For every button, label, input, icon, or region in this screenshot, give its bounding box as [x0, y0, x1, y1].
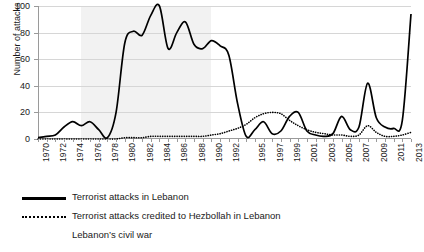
x-axis-tick-labels: 1970197219741976197819801982198419861988… — [38, 143, 411, 179]
legend-item-attacks: Terrorist attacks in Lebanon — [0, 188, 418, 207]
x-tick-mark — [246, 139, 247, 142]
legend-item-hezbollah: Terrorist attacks credited to Hezbollah … — [0, 207, 418, 226]
x-tick-label: 1970 — [42, 143, 51, 162]
x-tick-label: 1984 — [163, 143, 172, 162]
plot-area — [38, 6, 411, 139]
x-tick-label: 2003 — [328, 143, 337, 162]
x-tick-mark — [359, 139, 360, 142]
x-tick-mark — [185, 139, 186, 142]
x-tick-mark — [116, 139, 117, 142]
x-tick-mark — [47, 139, 48, 142]
x-tick-mark — [290, 139, 291, 142]
x-tick-mark — [342, 139, 343, 142]
x-tick-label: 1982 — [146, 143, 155, 162]
x-tick-mark — [368, 139, 369, 142]
x-tick-mark — [55, 139, 56, 142]
x-tick-mark — [133, 139, 134, 142]
chart-legend: Terrorist attacks in Lebanon Terrorist a… — [0, 188, 418, 245]
x-tick-label: 1999 — [293, 143, 302, 162]
x-tick-mark — [411, 139, 412, 142]
x-tick-mark — [151, 139, 152, 142]
x-tick-label: 1992 — [232, 143, 241, 162]
x-tick-mark — [402, 139, 403, 142]
x-tick-mark — [350, 139, 351, 142]
x-tick-mark — [385, 139, 386, 142]
x-tick-mark — [125, 139, 126, 142]
x-tick-mark — [298, 139, 299, 142]
x-tick-label: 2013 — [415, 143, 424, 162]
legend-label-hezbollah: Terrorist attacks credited to Hezbollah … — [72, 210, 281, 221]
y-axis-ticks: 020406080100 — [0, 0, 34, 139]
x-tick-label: 1974 — [76, 143, 85, 162]
y-tick-label: 40 — [20, 81, 30, 90]
legend-swatch-dotted-line — [22, 216, 66, 218]
x-tick-mark — [220, 139, 221, 142]
x-tick-mark — [168, 139, 169, 142]
x-tick-mark — [272, 139, 273, 142]
legend-swatch-solid-line — [22, 197, 66, 200]
legend-item-civil-war: Lebanon’s civil war — [0, 226, 418, 245]
x-tick-label: 2007 — [362, 143, 371, 162]
x-tick-mark — [90, 139, 91, 142]
x-tick-mark — [99, 139, 100, 142]
x-tick-label: 1988 — [198, 143, 207, 162]
x-tick-label: 1976 — [94, 143, 103, 162]
y-tick-label: 0 — [25, 135, 30, 144]
x-tick-label: 1997 — [276, 143, 285, 162]
x-tick-label: 1986 — [180, 143, 189, 162]
x-tick-label: 1990 — [215, 143, 224, 162]
legend-label-civil-war: Lebanon’s civil war — [72, 229, 152, 240]
x-tick-label: 2001 — [310, 143, 319, 162]
y-tick-label: 60 — [20, 55, 30, 64]
y-tick-label: 20 — [20, 108, 30, 117]
x-tick-mark — [229, 139, 230, 142]
x-tick-mark — [194, 139, 195, 142]
x-tick-label: 2009 — [380, 143, 389, 162]
x-tick-label: 2005 — [345, 143, 354, 162]
x-tick-mark — [255, 139, 256, 142]
x-tick-label: 1978 — [111, 143, 120, 162]
x-tick-mark — [81, 139, 82, 142]
x-tick-mark — [107, 139, 108, 142]
x-tick-label: 2011 — [397, 143, 406, 161]
x-tick-mark — [264, 139, 265, 142]
x-tick-mark — [177, 139, 178, 142]
x-tick-mark — [159, 139, 160, 142]
series-line-attacks — [38, 4, 411, 138]
x-tick-mark — [281, 139, 282, 142]
series-lines — [38, 6, 411, 139]
x-tick-mark — [307, 139, 308, 142]
x-tick-mark — [64, 139, 65, 142]
x-tick-mark — [73, 139, 74, 142]
y-tick-label: 100 — [15, 2, 30, 11]
x-tick-label: 1972 — [59, 143, 68, 162]
x-tick-mark — [238, 139, 239, 142]
x-tick-label: 1995 — [258, 143, 267, 162]
x-tick-mark — [394, 139, 395, 142]
x-tick-label: 1980 — [128, 143, 137, 162]
legend-label-attacks: Terrorist attacks in Lebanon — [72, 191, 189, 202]
x-tick-mark — [203, 139, 204, 142]
x-tick-mark — [38, 139, 39, 142]
x-tick-mark — [211, 139, 212, 142]
x-tick-mark — [324, 139, 325, 142]
x-tick-mark — [333, 139, 334, 142]
x-tick-mark — [376, 139, 377, 142]
x-tick-mark — [142, 139, 143, 142]
y-tick-label: 80 — [20, 28, 30, 37]
x-tick-mark — [316, 139, 317, 142]
